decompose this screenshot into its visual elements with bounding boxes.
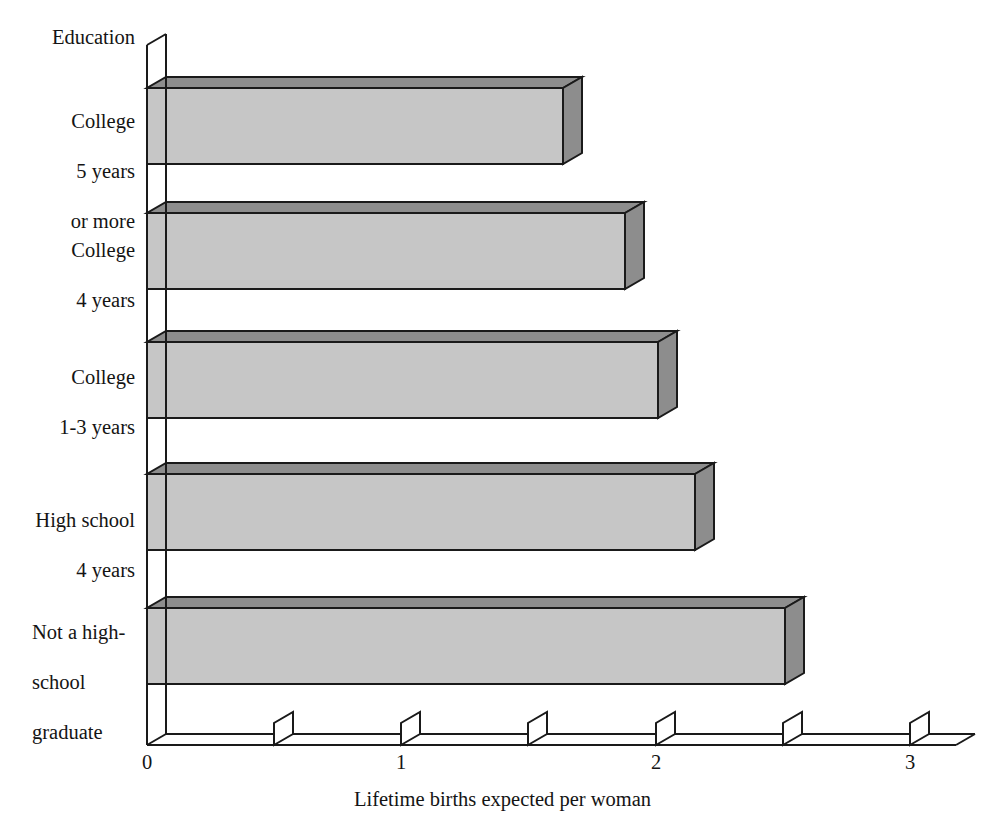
category-label-line: 1-3 years bbox=[0, 415, 135, 440]
category-label-line: College bbox=[0, 109, 135, 134]
category-label-line: College bbox=[0, 365, 135, 390]
category-label-line: College bbox=[0, 238, 135, 263]
x-axis-tick-label-1: 1 bbox=[381, 751, 421, 774]
x-axis-tick-label-0: 0 bbox=[127, 751, 167, 774]
bar-not-a-high-school-graduate bbox=[147, 597, 804, 684]
x-axis-tick-3.0 bbox=[910, 712, 929, 745]
category-label-line: High school bbox=[0, 508, 135, 533]
x-axis-tick-2.0 bbox=[656, 712, 675, 745]
category-label-high-school-4-years: High school 4 years bbox=[0, 483, 135, 608]
bar-chart-graphic bbox=[0, 0, 1005, 830]
x-axis-3d-floor bbox=[147, 734, 975, 745]
y-axis-title: Education bbox=[0, 25, 135, 50]
category-label-line: school bbox=[32, 670, 142, 695]
x-axis-tick-0.5 bbox=[274, 712, 293, 745]
category-label-college-1-3-years: College 1-3 years bbox=[0, 340, 135, 465]
x-axis-tick-2.5 bbox=[783, 712, 802, 745]
x-axis-tick-label-2: 2 bbox=[636, 751, 676, 774]
category-label-college-4-years: College 4 years bbox=[0, 213, 135, 338]
bar-college-4-years bbox=[147, 202, 644, 289]
category-label-line: graduate bbox=[32, 720, 142, 745]
category-label-line: 4 years bbox=[0, 558, 135, 583]
x-axis-title: Lifetime births expected per woman bbox=[0, 788, 1005, 811]
category-label-line: 5 years bbox=[0, 159, 135, 184]
x-axis-tick-1.5 bbox=[528, 712, 547, 745]
category-label-line: 4 years bbox=[0, 288, 135, 313]
bar-high-school-4-years bbox=[147, 463, 714, 550]
x-axis-tick-label-3: 3 bbox=[890, 751, 930, 774]
x-axis-tick-1.0 bbox=[401, 712, 420, 745]
category-label-line: Not a high- bbox=[32, 620, 142, 645]
chart-container: Education College 5 years or more Colleg… bbox=[0, 0, 1005, 830]
bar-college-1-3-years bbox=[147, 331, 677, 418]
bar-college-5-years-or-more bbox=[147, 77, 582, 164]
category-label-not-a-high-school-graduate: Not a high- school graduate bbox=[32, 595, 142, 770]
